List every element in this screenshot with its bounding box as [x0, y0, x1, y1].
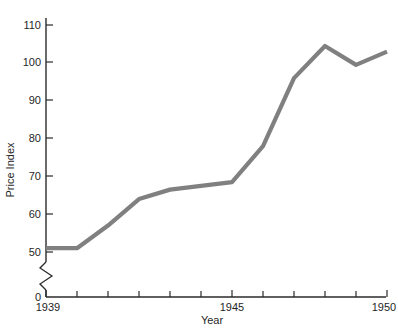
y-tick-marks: [46, 25, 53, 252]
y-tick-label-80: 80: [29, 132, 41, 144]
x-tick-label-1945: 1945: [220, 301, 244, 313]
y-tick-labels: 110 100 90 80 70 60 50 0: [23, 19, 41, 303]
y-tick-label-100: 100: [23, 56, 41, 68]
x-tick-labels: 1939 1945 1950: [36, 301, 396, 313]
chart-canvas: Price Index Year 110 100 90 80 70: [0, 0, 398, 328]
y-tick-label-50: 50: [29, 246, 41, 258]
y-tick-label-90: 90: [29, 94, 41, 106]
y-tick-label-60: 60: [29, 208, 41, 220]
x-tick-label-1939: 1939: [36, 301, 60, 313]
y-axis-title: Price Index: [4, 142, 16, 198]
price-index-line-chart: Price Index Year 110 100 90 80 70: [0, 0, 398, 328]
x-tick-label-1950: 1950: [372, 301, 396, 313]
price-index-series-line: [46, 46, 387, 248]
y-axis-break-icon: [40, 262, 52, 290]
y-tick-label-110: 110: [23, 19, 41, 31]
x-tick-marks: [46, 290, 387, 297]
y-tick-label-70: 70: [29, 170, 41, 182]
x-axis-title: Year: [201, 314, 224, 326]
